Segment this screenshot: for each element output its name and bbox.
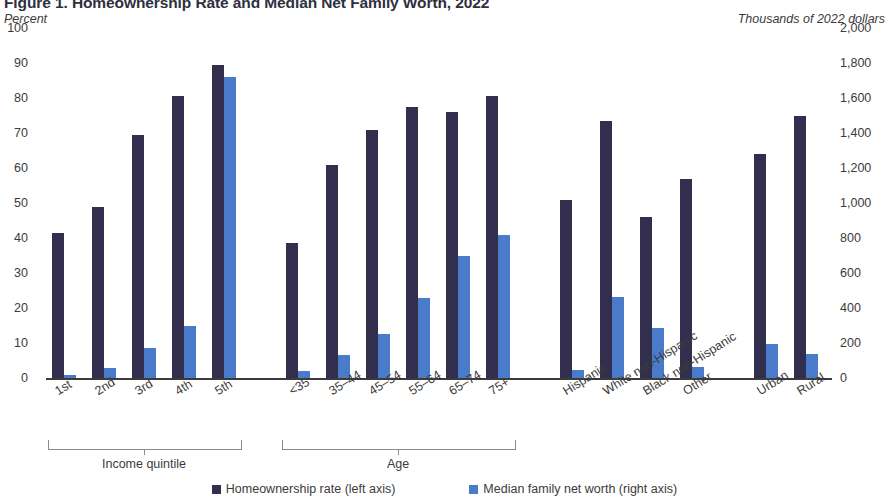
bar-homeownership-rate [560, 200, 572, 379]
right-tick-0: 0 [840, 372, 847, 385]
bar-homeownership-rate [366, 130, 378, 379]
bar-homeownership-rate [212, 65, 224, 378]
bar-median-net-worth [612, 297, 624, 378]
bar-homeownership-rate [286, 243, 298, 378]
group-label: Income quintile [74, 457, 214, 471]
category-label: 3rd [133, 377, 155, 397]
category-label: 1st [53, 378, 74, 397]
left-tick-70: 70 [14, 127, 28, 140]
bar-homeownership-rate [486, 96, 498, 378]
legend-label-rate: Homeownership rate (left axis) [226, 482, 396, 496]
bar-homeownership-rate [326, 165, 338, 379]
left-tick-60: 60 [14, 162, 28, 175]
right-tick-2000: 2,000 [840, 22, 871, 35]
bar-homeownership-rate [406, 107, 418, 378]
left-tick-20: 20 [14, 302, 28, 315]
left-tick-90: 90 [14, 57, 28, 70]
bar-median-net-worth [498, 235, 510, 379]
bar-median-net-worth [144, 348, 156, 378]
bar-homeownership-rate [132, 135, 144, 378]
left-tick-10: 10 [14, 337, 28, 350]
bar-median-net-worth [184, 326, 196, 379]
page-title: Figure 1. Homeownership Rate and Median … [4, 0, 489, 12]
category-label: 5th [213, 378, 234, 398]
left-tick-100: 100 [7, 22, 28, 35]
bar-homeownership-rate [52, 233, 64, 378]
bar-homeownership-rate [754, 154, 766, 378]
legend-swatch-worth [469, 485, 478, 494]
left-tick-50: 50 [14, 197, 28, 210]
right-tick-1200: 1,200 [840, 162, 871, 175]
legend-swatch-rate [212, 485, 221, 494]
left-tick-30: 30 [14, 267, 28, 280]
bar-homeownership-rate [794, 116, 806, 379]
right-tick-600: 600 [840, 267, 861, 280]
bar-homeownership-rate [446, 112, 458, 378]
right-tick-1000: 1,000 [840, 197, 871, 210]
bar-median-net-worth [418, 298, 430, 379]
right-tick-400: 400 [840, 302, 861, 315]
right-tick-1800: 1,800 [840, 57, 871, 70]
left-tick-80: 80 [14, 92, 28, 105]
group-bracket-tick [398, 449, 399, 455]
right-tick-200: 200 [840, 337, 861, 350]
chart-legend: Homeownership rate (left axis) Median fa… [0, 482, 889, 496]
bar-homeownership-rate [600, 121, 612, 378]
bar-homeownership-rate [172, 96, 184, 378]
plot-area [46, 28, 832, 378]
right-tick-1600: 1,600 [840, 92, 871, 105]
left-tick-40: 40 [14, 232, 28, 245]
bar-median-net-worth [458, 256, 470, 379]
category-label: 4th [173, 378, 194, 398]
right-tick-800: 800 [840, 232, 861, 245]
legend-item-homeownership-rate: Homeownership rate (left axis) [212, 482, 396, 496]
bar-median-net-worth [224, 77, 236, 378]
right-tick-1400: 1,400 [840, 127, 871, 140]
left-tick-0: 0 [21, 372, 28, 385]
group-bracket-tick [144, 449, 145, 455]
legend-item-median-net-worth: Median family net worth (right axis) [469, 482, 677, 496]
group-label: Age [328, 457, 468, 471]
bar-homeownership-rate [92, 207, 104, 379]
legend-label-worth: Median family net worth (right axis) [483, 482, 677, 496]
